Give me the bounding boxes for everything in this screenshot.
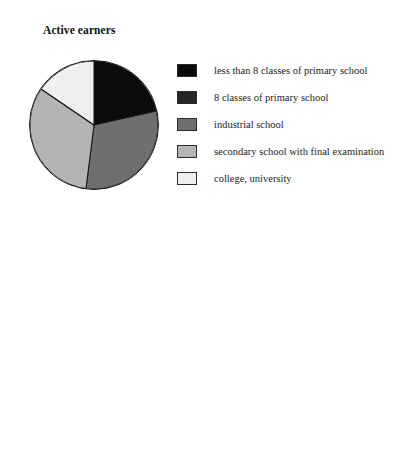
legend-swatch-icon — [177, 172, 197, 185]
legend-item-label: college, university — [214, 173, 292, 185]
legend-item-label: less than 8 classes of primary school — [214, 65, 367, 77]
pie-chart-active-earners — [29, 60, 159, 190]
legend-item: college, university — [177, 165, 384, 192]
legend-item-label: secondary school with final examination — [214, 146, 384, 158]
legend-item: less than 8 classes of primary school — [177, 57, 384, 84]
legend-swatch-icon — [177, 145, 197, 158]
chart-block-active-earners: Active earners less than 8 classes of pr… — [0, 0, 393, 225]
pie-circle — [29, 60, 159, 190]
legend-active-earners: less than 8 classes of primary school 8 … — [177, 57, 384, 192]
legend-swatch-icon — [177, 118, 197, 131]
legend-item: industrial school — [177, 111, 384, 138]
legend-item: secondary school with final examination — [177, 138, 384, 165]
legend-item: 8 classes of primary school — [177, 84, 384, 111]
page-title-active-earners: Active earners — [43, 24, 116, 36]
chart-block-unemployed: Unemployed less than 8 classes of primar… — [0, 225, 393, 451]
pie-slices-svg — [30, 61, 158, 189]
legend-swatch-icon — [177, 91, 197, 104]
legend-swatch-icon — [177, 64, 197, 77]
legend-item-label: industrial school — [214, 119, 284, 131]
legend-item-label: 8 classes of primary school — [214, 92, 328, 104]
